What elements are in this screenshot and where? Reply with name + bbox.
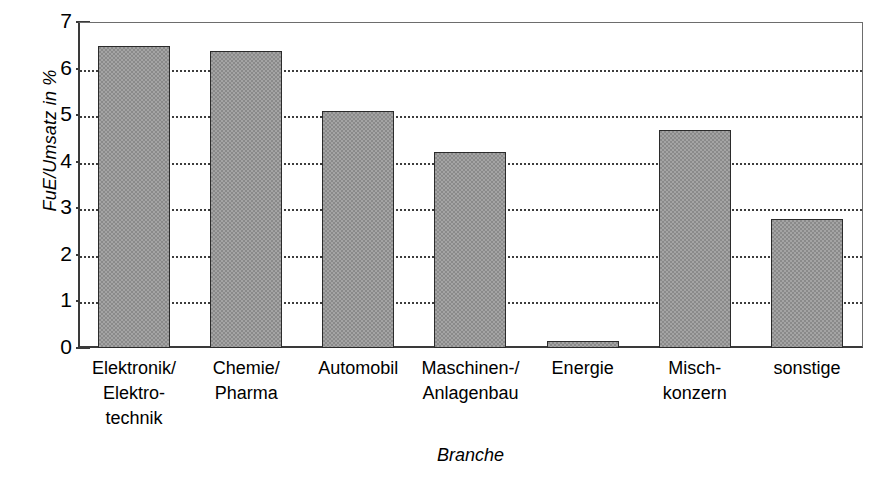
bar-slot	[302, 22, 414, 348]
y-tick-label: 2	[32, 241, 72, 267]
y-tick-label: 3	[32, 194, 72, 220]
x-axis-category-labels: Elektronik/ Elektro- technikChemie/ Phar…	[78, 356, 863, 436]
bar[interactable]	[98, 46, 170, 348]
bar[interactable]	[322, 111, 394, 348]
bar[interactable]	[547, 341, 619, 348]
y-tick-label: 6	[32, 55, 72, 81]
x-axis-label: Energie	[527, 356, 639, 381]
bar-slot	[414, 22, 526, 348]
bar-slot	[639, 22, 751, 348]
y-tick-label: 7	[32, 8, 72, 34]
bar[interactable]	[210, 51, 282, 348]
bar-chart: FuE/Umsatz in % 01234567 Elektronik/ Ele…	[0, 0, 883, 483]
y-tick-label: 4	[32, 148, 72, 174]
bar[interactable]	[771, 219, 843, 348]
y-tick-label: 0	[32, 334, 72, 360]
bar[interactable]	[434, 152, 506, 348]
bar-slot	[527, 22, 639, 348]
x-axis-label: Chemie/ Pharma	[190, 356, 302, 406]
x-axis-label: Maschinen-/ Anlagenbau	[414, 356, 526, 406]
x-axis-label: Misch- konzern	[639, 356, 751, 406]
x-axis-title: Branche	[78, 445, 863, 466]
bar[interactable]	[659, 130, 731, 348]
y-tick-label: 1	[32, 287, 72, 313]
x-axis-label: Automobil	[302, 356, 414, 381]
y-tick-label: 5	[32, 101, 72, 127]
x-axis-label: sonstige	[751, 356, 863, 381]
x-axis-label: Elektronik/ Elektro- technik	[78, 356, 190, 431]
bar-slot	[751, 22, 863, 348]
bar-slot	[78, 22, 190, 348]
bars-layer	[78, 22, 863, 348]
bar-slot	[190, 22, 302, 348]
